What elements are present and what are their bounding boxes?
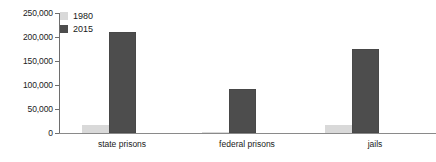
- x-axis-label-state-prisons: state prisons: [72, 139, 172, 149]
- y-axis-label-50000: 50,000: [1, 105, 53, 114]
- legend-label-1980: 1980: [73, 11, 93, 21]
- y-axis-label-0: 0: [1, 129, 53, 138]
- bar-chart: 250,000 200,000 150,000 100,000 50,000 0…: [0, 0, 436, 162]
- y-axis-label-250000: 250,000: [1, 9, 53, 18]
- legend-label-2015: 2015: [73, 24, 93, 34]
- y-axis-label-100000-wrap: 100,000: [0, 81, 53, 90]
- x-axis-label-federal-prisons: federal prisons: [192, 139, 302, 149]
- legend-item-2015: 2015: [60, 22, 93, 35]
- legend-swatch-1980-icon: [60, 12, 68, 20]
- y-axis-label-150000-wrap: 150,000: [0, 57, 53, 66]
- y-axis-label-0-wrap: 0: [0, 129, 53, 138]
- y-axis-tick-150000: [55, 61, 59, 62]
- bar-2015-jails: [352, 49, 379, 133]
- y-axis-tick-100000: [55, 85, 59, 86]
- bar-2015-state-prisons: [109, 32, 136, 133]
- y-axis-label-250000-wrap: 250,000: [0, 9, 53, 18]
- y-axis-tick-200000: [55, 37, 59, 38]
- y-axis-label-150000: 150,000: [1, 57, 53, 66]
- bar-1980-jails: [325, 125, 352, 133]
- y-axis-label-100000: 100,000: [1, 81, 53, 90]
- y-axis-label-200000-wrap: 200,000: [0, 33, 53, 42]
- y-axis-label-200000: 200,000: [1, 33, 53, 42]
- x-axis-line: [59, 133, 436, 134]
- y-axis-label-50000-wrap: 50,000: [0, 105, 53, 114]
- legend-item-1980: 1980: [60, 9, 93, 22]
- bar-1980-state-prisons: [82, 125, 109, 133]
- bar-2015-federal-prisons: [229, 89, 256, 133]
- y-axis-tick-50000: [55, 109, 59, 110]
- x-axis-label-jails: jails: [330, 139, 420, 149]
- chart-legend: 1980 2015: [60, 9, 93, 35]
- y-axis-tick-250000: [55, 13, 59, 14]
- legend-swatch-2015-icon: [60, 25, 68, 33]
